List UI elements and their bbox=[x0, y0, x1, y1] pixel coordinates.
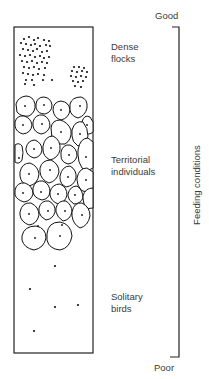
territories bbox=[15, 96, 93, 250]
dense-flock-large bbox=[19, 36, 53, 86]
solitary-birds bbox=[29, 265, 79, 332]
scale-bottom-label: Poor bbox=[154, 362, 174, 374]
zone-label-line: Territorial bbox=[111, 154, 155, 166]
scale-top-label: Good bbox=[155, 10, 178, 22]
zone-label-line: Solitary bbox=[111, 291, 143, 303]
zone-label-line: flocks bbox=[111, 53, 138, 65]
zone-label-line: Dense bbox=[111, 41, 138, 53]
axis-label-feeding-conditions: Feeding conditions bbox=[191, 145, 203, 225]
dense-flock-small bbox=[70, 66, 88, 88]
zone-label-line: birds bbox=[111, 303, 143, 315]
diagram-canvas bbox=[0, 0, 209, 379]
zone-label-territorial: Territorial individuals bbox=[111, 154, 155, 178]
feeding-scale-bracket bbox=[170, 27, 179, 357]
zone-label-dense: Dense flocks bbox=[111, 41, 138, 65]
zone-label-solitary: Solitary birds bbox=[111, 291, 143, 315]
zone-label-line: individuals bbox=[111, 166, 155, 178]
